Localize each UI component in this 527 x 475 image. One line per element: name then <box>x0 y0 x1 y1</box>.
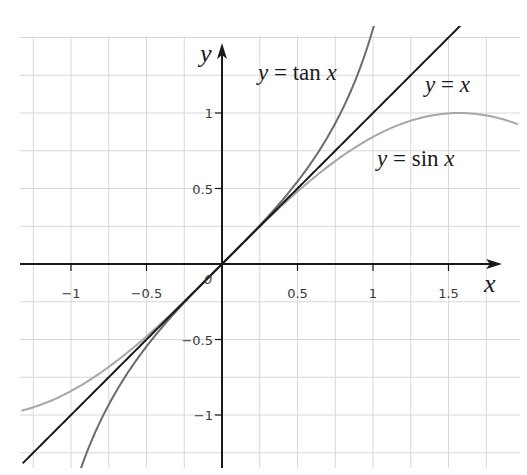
tan-label-y: y <box>256 60 269 85</box>
y-tick-label: 0.5 <box>192 182 213 197</box>
y-tick-label: 1 <box>205 106 213 121</box>
sin-label-x: x <box>443 146 455 171</box>
sin-curve-label: y = sin x <box>375 146 455 171</box>
grid <box>20 36 520 468</box>
sin-label-fn: sin <box>412 146 445 171</box>
identity-label-eq: = <box>435 72 459 97</box>
x-tick-label: 1.5 <box>438 286 459 301</box>
y-tick-label: −0.5 <box>181 333 213 348</box>
y-tick-label: −1 <box>194 408 213 423</box>
identity-line <box>23 22 464 463</box>
x-tick-label: 1 <box>369 286 377 301</box>
y-axis-label: y <box>197 39 212 68</box>
origin-label: 0 <box>204 272 212 287</box>
identity-line-label: y = x <box>423 72 471 97</box>
x-tick-label: −0.5 <box>131 286 163 301</box>
axes <box>20 43 502 468</box>
x-tick-label: −1 <box>61 286 80 301</box>
tan-curve-label: y = tan x <box>256 60 338 85</box>
tan-label-fn: tan <box>293 60 327 85</box>
identity-label-x: x <box>459 72 471 97</box>
function-graph: −1−0.50.511.510.5−0.5−1 x y 0 y = tan x … <box>0 0 527 475</box>
x-tick-label: 0.5 <box>287 286 308 301</box>
tan-label-x: x <box>326 60 338 85</box>
sin-label-y: y <box>375 146 388 171</box>
identity-label-y: y <box>423 72 436 97</box>
x-axis-label: x <box>483 269 496 298</box>
tan-label-eq: = <box>268 60 292 85</box>
sin-label-eq: = <box>387 146 411 171</box>
